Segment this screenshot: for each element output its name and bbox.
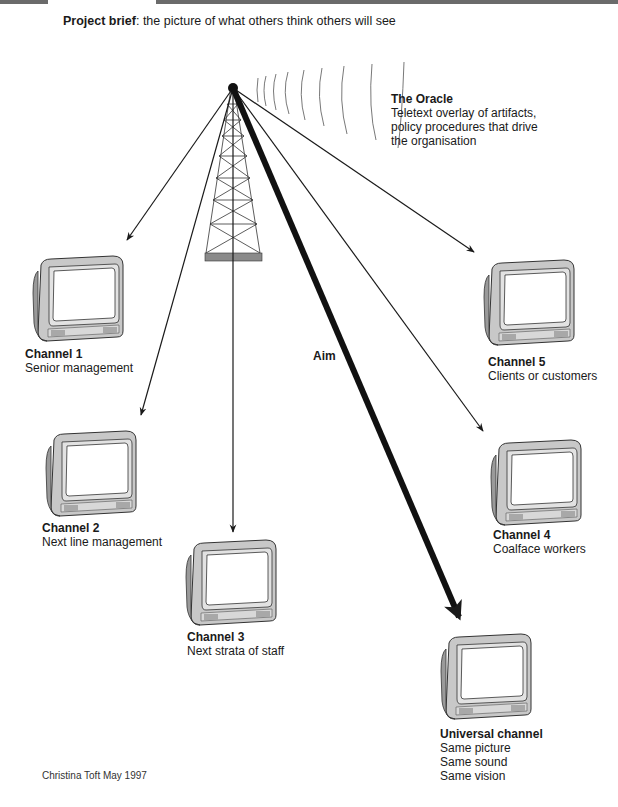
arrow-channel-2 [141, 88, 233, 415]
universal-channel-label: Universal channel Same picture Same soun… [440, 727, 543, 783]
channel-3-label: Channel 3 Next strata of staff [187, 630, 284, 658]
channel-2-label: Channel 2 Next line management [42, 521, 162, 549]
channel-4-label: Channel 4 Coalface workers [493, 528, 586, 556]
channel-desc: Clients or customers [488, 369, 597, 383]
oracle-label: The Oracle Teletext overlay of artifacts… [391, 92, 538, 148]
channel-desc: Coalface workers [493, 542, 586, 556]
channel-desc: Next strata of staff [187, 644, 284, 658]
channel-5-label: Channel 5 Clients or customers [488, 355, 597, 383]
author-credit: Christina Toft May 1997 [42, 770, 147, 781]
tv-channel-2 [46, 431, 136, 516]
oracle-line: policy procedures that drive [391, 120, 538, 134]
broadcast-arrows [127, 88, 483, 532]
channel-title: Universal channel [440, 727, 543, 741]
aim-label: Aim [313, 349, 336, 363]
tv-channel-3 [186, 540, 276, 625]
oracle-line: Teletext overlay of artifacts, [391, 106, 538, 120]
tv-universal-channel [441, 634, 531, 719]
tv-channel-1 [33, 256, 123, 341]
channel-desc: Next line management [42, 535, 162, 549]
arrow-channel-1 [127, 88, 233, 240]
channel-desc: Same sound [440, 755, 543, 769]
radio-waves [257, 62, 404, 148]
channel-title: Channel 5 [488, 355, 597, 369]
channel-desc: Same vision [440, 769, 543, 783]
tv-channel-4 [491, 440, 581, 525]
oracle-title: The Oracle [391, 92, 538, 106]
channel-title: Channel 2 [42, 521, 162, 535]
channel-title: Channel 1 [25, 347, 133, 361]
channel-desc: Same picture [440, 741, 543, 755]
channel-1-label: Channel 1 Senior management [25, 347, 133, 375]
channel-title: Channel 4 [493, 528, 586, 542]
channel-title: Channel 3 [187, 630, 284, 644]
channel-desc: Senior management [25, 361, 133, 375]
oracle-line: the organisation [391, 134, 538, 148]
tv-channel-5 [484, 260, 574, 345]
